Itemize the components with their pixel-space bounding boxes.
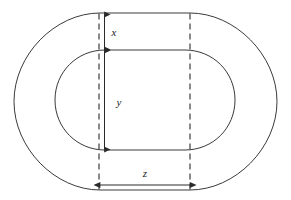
dimension-label-z: z bbox=[142, 167, 148, 179]
inner-rounded-rectangle bbox=[55, 50, 235, 150]
dimension-label-y: y bbox=[116, 96, 122, 108]
geometry-figure: x y z bbox=[0, 0, 291, 200]
outer-rounded-rectangle bbox=[14, 13, 277, 190]
dimension-label-x: x bbox=[111, 26, 117, 38]
figure-canvas: x y z bbox=[0, 0, 291, 200]
